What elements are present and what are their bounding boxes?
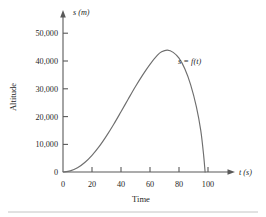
curve-annotation-label: s = f(t) <box>178 57 202 66</box>
data-curve-altitude <box>63 50 205 172</box>
y-axis-title: Altitude <box>8 83 18 111</box>
y-tick-label-30000: 30,000 <box>35 85 58 94</box>
y-tick-label-40000: 40,000 <box>35 57 58 66</box>
x-tick-label-60: 60 <box>146 180 154 189</box>
x-tick-label-100: 100 <box>202 180 214 189</box>
x-axis-unit-label: t (s) <box>239 168 252 177</box>
x-tick-label-40: 40 <box>117 180 125 189</box>
chart-svg: 50,000 40,000 30,000 20,000 10,000 0 0 2… <box>0 0 266 217</box>
x-tick-label-80: 80 <box>175 180 183 189</box>
y-tick-label-20000: 20,000 <box>35 113 58 122</box>
x-axis-title: Time <box>132 194 150 204</box>
altitude-vs-time-figure: 50,000 40,000 30,000 20,000 10,000 0 0 2… <box>0 0 266 217</box>
y-tick-label-0: 0 <box>54 168 58 177</box>
y-tick-label-10000: 10,000 <box>35 140 58 149</box>
y-axis-arrowhead-icon <box>60 10 66 18</box>
y-axis-unit-label: s (m) <box>73 8 90 17</box>
y-tick-label-50000: 50,000 <box>35 29 58 38</box>
x-tick-label-0: 0 <box>61 180 65 189</box>
x-tick-label-20: 20 <box>88 180 96 189</box>
x-axis-arrowhead-icon <box>228 169 236 175</box>
